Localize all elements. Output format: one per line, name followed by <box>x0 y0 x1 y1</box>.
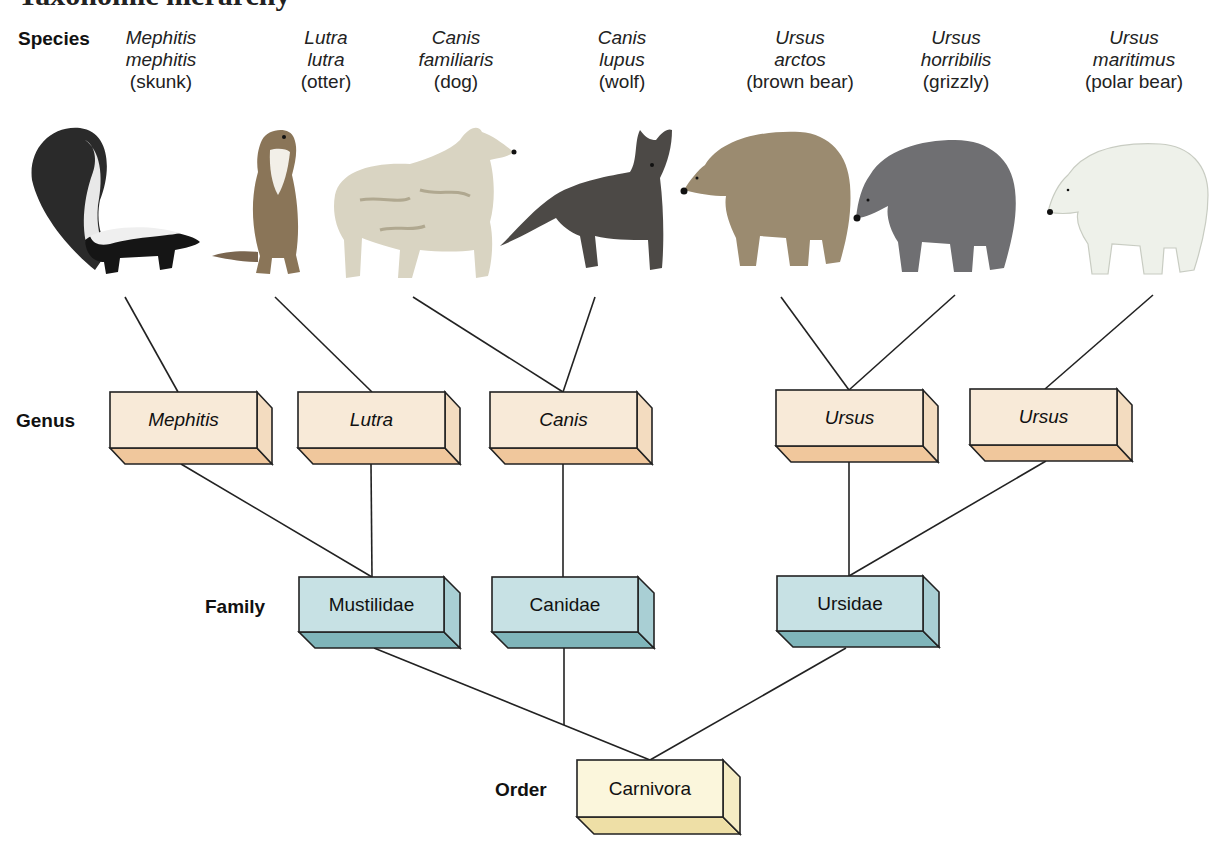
family-label-ursidae: Ursidae <box>777 593 923 615</box>
connector-lines <box>125 295 1153 760</box>
genus-label-mephitis: Mephitis <box>110 409 257 431</box>
family-label-mustilidae: Mustilidae <box>299 594 444 616</box>
brown-bear-illustration <box>681 132 851 266</box>
genus-label-canis: Canis <box>490 409 637 431</box>
wolf-illustration <box>500 129 672 270</box>
skunk-illustration <box>32 128 200 274</box>
genus-label-ursus-1: Ursus <box>776 407 923 429</box>
polar-bear-illustration <box>1047 144 1208 274</box>
order-label-carnivora: Carnivora <box>577 778 723 800</box>
genus-label-ursus-2: Ursus <box>970 406 1117 428</box>
grizzly-illustration <box>854 140 1016 272</box>
family-label-canidae: Canidae <box>492 594 638 616</box>
genus-label-lutra: Lutra <box>298 409 445 431</box>
otter-illustration <box>212 130 300 274</box>
dog-illustration <box>334 128 516 278</box>
